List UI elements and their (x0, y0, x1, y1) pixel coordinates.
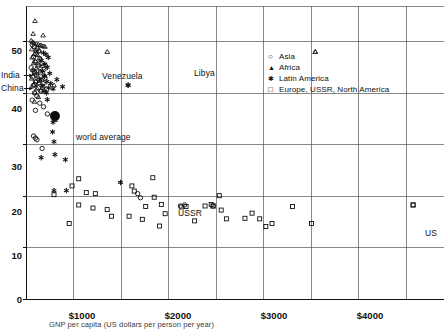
data-point-asterisk (51, 130, 55, 135)
legend-item-europe-ussr-north-america: □ Europe, USSR, North America (268, 84, 389, 95)
x-tick-4000: $4000 (342, 310, 398, 321)
data-point-asterisk (52, 139, 56, 144)
data-point-open-square (270, 221, 274, 225)
y-tick-50: 50 (2, 45, 22, 56)
data-point-open-square (250, 211, 254, 215)
data-point-asterisk (63, 157, 67, 162)
data-point-open-square (224, 217, 228, 221)
y-tick-30: 30 (2, 161, 22, 172)
data-point-open-square (264, 225, 268, 229)
legend-label-europe-ussr-north-america: Europe, USSR, North America (279, 84, 389, 95)
annotation-us: US (425, 228, 437, 238)
annotation-pointers (24, 73, 33, 90)
data-point-asterisk (45, 97, 49, 102)
data-point-asterisk (52, 188, 56, 193)
y-tick-10: 10 (2, 250, 22, 261)
data-point-asterisk (48, 71, 52, 76)
legend-item-asia: ○ Asia (268, 51, 389, 62)
data-point-open-square (77, 177, 81, 181)
data-point-open-square (151, 176, 155, 180)
data-point-asterisk (55, 77, 59, 82)
data-point-open-square (411, 203, 415, 207)
plot-frame (26, 6, 444, 300)
annotation-world-average: world average (76, 132, 131, 142)
legend-label-latin-america: Latin America (279, 73, 329, 84)
highlighted-point-world-average (50, 111, 60, 121)
data-point-open-square (109, 214, 113, 218)
data-point-filled-triangle (29, 47, 34, 51)
data-point-open-square (144, 204, 148, 208)
data-point-open-square (290, 204, 294, 208)
data-point-open-square (84, 191, 88, 195)
y-tick-40: 40 (2, 103, 22, 114)
asterisk-icon: ✱ (268, 73, 279, 84)
filled-triangle-icon: ▲ (268, 62, 279, 73)
x-axis-caption: GNP per capita (US dollars per person pe… (49, 320, 214, 329)
axis-ticks (23, 42, 26, 300)
data-point-filled-triangle (31, 32, 36, 36)
data-point-asterisk (64, 188, 68, 193)
data-point-open-square (140, 217, 144, 221)
data-point-asterisk (119, 180, 123, 185)
annotation-libya: Libya (194, 68, 215, 78)
annotation-ussr: USSR (178, 208, 202, 218)
data-point-asterisk (49, 81, 53, 86)
chart-legend: ○ Asia ▲ Africa ✱ Latin America □ Europe… (268, 51, 389, 95)
data-point-open-square (93, 192, 97, 196)
data-point-open-square (203, 204, 207, 208)
gridlines (26, 6, 444, 299)
data-point-open-square (105, 208, 109, 212)
data-point-open-circle (45, 112, 49, 116)
data-point-open-square (159, 202, 163, 206)
data-point-open-circle (33, 108, 37, 112)
data-point-open-square (217, 194, 221, 198)
data-point-open-square (152, 195, 156, 199)
data-point-open-circle (41, 105, 45, 109)
data-point-open-circle (38, 101, 42, 105)
data-point-open-square (243, 216, 247, 220)
legend-label-africa: Africa (279, 62, 300, 73)
data-point-open-square (130, 184, 134, 188)
annotation-china: China (1, 83, 24, 93)
data-point-filled-triangle (33, 19, 38, 23)
annotation-india: India (1, 70, 20, 80)
data-point-asterisk (53, 152, 57, 157)
x-tick-3000: $3000 (246, 310, 302, 321)
data-point-open-square (77, 203, 81, 207)
highlighted-point-venezuela (126, 83, 130, 88)
data-point-filled-triangle (32, 99, 37, 103)
open-square-icon: □ (268, 84, 279, 95)
data-point-open-square (91, 206, 95, 210)
data-point-open-square (127, 214, 131, 218)
y-tick-20: 20 (2, 206, 22, 217)
data-point-open-square (67, 221, 71, 225)
data-point-asterisk (61, 84, 65, 89)
open-circle-icon: ○ (268, 51, 279, 62)
data-point-open-circle (40, 146, 44, 150)
data-point-open-square (219, 208, 223, 212)
y-tick-0: 0 (2, 294, 22, 305)
legend-item-latin-america: ✱ Latin America (268, 73, 389, 84)
data-point-asterisk (39, 155, 43, 160)
legend-item-africa: ▲ Africa (268, 62, 389, 73)
data-point-open-square (193, 219, 197, 223)
data-point-open-square (258, 217, 262, 221)
data-point-open-square (157, 224, 161, 228)
highlighted-point-us (411, 203, 415, 207)
data-point-filled-triangle (41, 33, 46, 37)
data-point-filled-triangle (105, 50, 110, 54)
data-point-asterisk (46, 55, 50, 60)
legend-label-asia: Asia (279, 51, 295, 62)
annotation-venezuela: Venezuela (102, 71, 143, 81)
data-point-open-square (163, 212, 167, 216)
